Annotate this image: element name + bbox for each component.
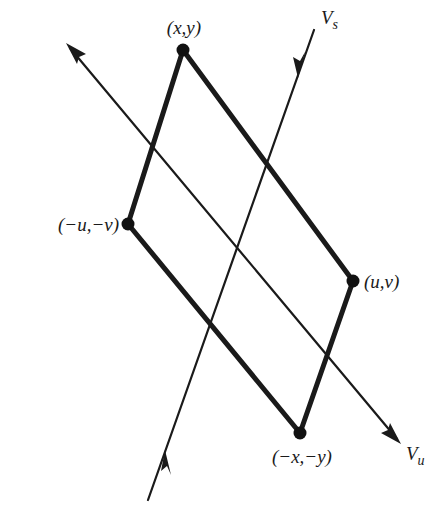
stable-axis-top-arrow-icon	[293, 52, 305, 78]
parallelogram-outline	[128, 50, 353, 433]
vertex-xy	[177, 44, 190, 57]
stable-axis: Vs	[148, 7, 339, 500]
parallelogram-diagram: Vs Vu (x,y) (−u,−v) (u,v) (−x,−y)	[0, 0, 448, 521]
vertex-uv	[347, 275, 360, 288]
unstable-axis-label: Vu	[406, 443, 425, 468]
vertex-neg-xy	[294, 427, 307, 440]
unstable-axis-top-arrow-icon	[66, 43, 86, 64]
vertex-neg-xy-label: (−x,−y)	[272, 446, 332, 468]
stable-axis-line	[148, 30, 314, 500]
vertex-xy-label: (x,y)	[167, 17, 201, 39]
vertex-uv-label: (u,v)	[364, 271, 399, 293]
vertex-neg-uv-label: (−u,−v)	[58, 214, 119, 236]
unstable-axis-line	[70, 48, 397, 439]
unstable-axis: Vu	[66, 43, 425, 468]
stable-axis-bottom-arrow-icon	[161, 450, 171, 475]
vertex-neg-uv	[122, 218, 135, 231]
vertex-labels: (x,y) (−u,−v) (u,v) (−x,−y)	[58, 17, 399, 468]
parallelogram	[128, 50, 353, 433]
stable-axis-label: Vs	[321, 7, 339, 32]
unstable-axis-bottom-arrow-icon	[381, 423, 401, 444]
